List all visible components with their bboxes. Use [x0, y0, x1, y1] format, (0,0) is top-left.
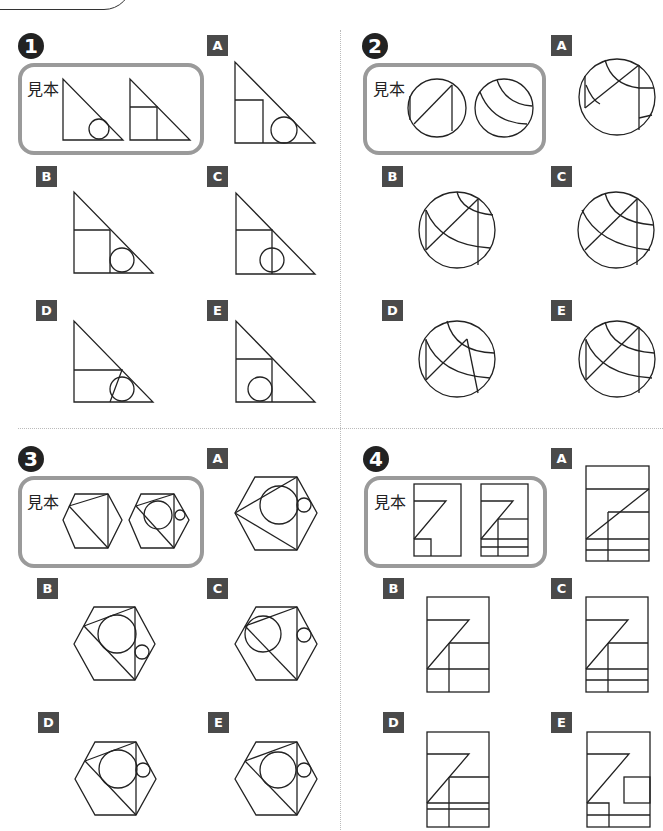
- q3-sample-figure-1: [63, 494, 122, 548]
- q1-option-b-figure[interactable]: [74, 192, 153, 273]
- q4-option-d-figure[interactable]: [427, 732, 489, 827]
- q2-option-a-figure[interactable]: [579, 59, 655, 135]
- q1-sample-figure-1: [63, 79, 123, 140]
- q3-option-e-figure[interactable]: [235, 742, 317, 815]
- q4-option-e-figure[interactable]: [587, 732, 650, 827]
- q1-option-e-figure[interactable]: [236, 321, 315, 402]
- q2-sample-figure-1: [408, 79, 466, 137]
- q1-sample-figure-2: [130, 79, 190, 140]
- q2-option-d-figure[interactable]: [419, 321, 495, 397]
- q4-option-a-figure[interactable]: [586, 466, 649, 561]
- q2-option-e-figure[interactable]: [579, 321, 655, 397]
- q4-option-c-figure[interactable]: [586, 597, 648, 692]
- q3-option-c-figure[interactable]: [235, 607, 317, 680]
- q1-option-d-figure[interactable]: [74, 321, 153, 402]
- q4-sample-figure-2: [481, 484, 528, 556]
- q1-option-c-figure[interactable]: [236, 193, 315, 274]
- q3-sample-figure-2: [129, 494, 189, 548]
- figures-canvas: [0, 0, 663, 831]
- q4-option-b-figure[interactable]: [427, 597, 489, 692]
- q3-option-d-figure[interactable]: [75, 742, 156, 815]
- q4-sample-figure-1: [414, 484, 461, 556]
- q3-option-b-figure[interactable]: [74, 607, 155, 680]
- q2-option-c-figure[interactable]: [578, 192, 654, 268]
- q2-option-b-figure[interactable]: [419, 192, 495, 268]
- q1-option-a-figure[interactable]: [235, 62, 315, 143]
- q2-sample-figure-2: [475, 79, 533, 137]
- q3-option-a-figure[interactable]: [235, 477, 317, 550]
